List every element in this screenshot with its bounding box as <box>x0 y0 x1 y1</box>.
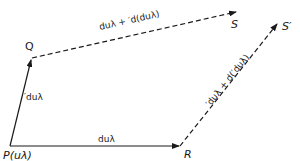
vector-pq <box>10 60 31 146</box>
point-label-r: R <box>184 148 192 161</box>
point-label-s-prime: S′ <box>282 20 292 33</box>
parallelogram-diagram: P(uλ) Q R S S′ ′duλ duλ duλ + ′d(duλ) ′d… <box>0 0 300 161</box>
vector-label-rs-prime: ′duλ + d(′duλ) <box>204 52 251 108</box>
vector-label-pq: ′duλ <box>24 92 43 102</box>
vector-label-pr: duλ <box>98 134 115 144</box>
point-label-q: Q <box>25 40 34 53</box>
vector-label-qs: duλ + ′d(duλ) <box>98 9 160 32</box>
point-label-p: P(uλ) <box>3 149 32 161</box>
point-label-s: S <box>231 18 238 31</box>
